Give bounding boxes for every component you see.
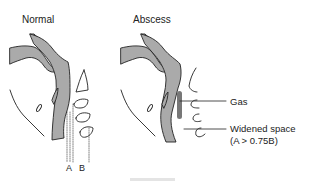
gas-label: Gas [230,97,247,107]
diagram-canvas [0,0,309,185]
measurement-label-a: A [66,164,72,173]
normal-neck-outline [10,90,44,136]
abscess-panel-title: Abscess [133,15,171,25]
normal-hyoid [36,104,43,113]
widened-space-criterion: (A > 0.75B) [230,136,278,146]
abscess-panel-illustration [121,34,226,142]
abscess-neck-outline [121,90,155,136]
abscess-vertebra-3 [193,114,201,122]
abscess-hyoid [147,104,154,113]
measurement-label-b: B [79,164,85,173]
widened-space-label: Widened space [230,124,295,134]
normal-panel-title: Normal [22,15,54,25]
abscess-vertebra-1 [189,68,197,92]
normal-vertebra-4 [80,127,93,137]
cropped-caption-remnant [130,178,175,181]
normal-panel-illustration [10,34,93,162]
gas-collection [177,91,182,119]
normal-vertebra-1 [76,70,88,92]
normal-vertebra-2 [74,99,88,108]
normal-vertebra-3 [76,113,90,122]
